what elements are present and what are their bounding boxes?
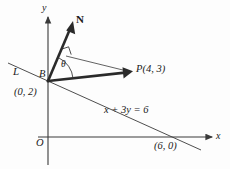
base-point-coords: (0, 2) bbox=[14, 87, 37, 98]
line-label-L: L bbox=[13, 66, 19, 77]
line-equation-label: x + 3y = 6 bbox=[104, 105, 149, 116]
origin-label: O bbox=[36, 138, 44, 149]
y-axis-label: y bbox=[42, 3, 46, 13]
geometry-figure: y x O L N B (0, 2) P(4, 3) (6, 0) θ x + … bbox=[0, 0, 230, 169]
point-p-label: P(4, 3) bbox=[136, 64, 165, 75]
vector-n bbox=[48, 21, 75, 81]
projection-segment bbox=[66, 56, 131, 72]
angle-theta-label: θ bbox=[61, 60, 66, 70]
x-intercept-coords: (6, 0) bbox=[154, 141, 177, 152]
x-axis-label: x bbox=[216, 131, 220, 141]
normal-vector-label-N: N bbox=[76, 14, 84, 25]
point-b-dot bbox=[46, 79, 49, 82]
figure-canvas bbox=[0, 0, 230, 169]
base-point-label-B: B bbox=[39, 69, 45, 80]
